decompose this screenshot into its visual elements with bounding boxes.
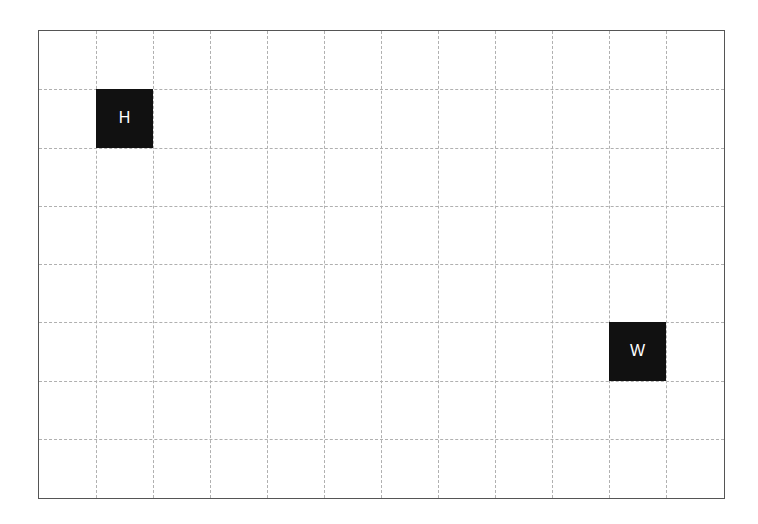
piece-h[interactable]: H [96,89,153,147]
piece-label: W [630,342,645,360]
grid-row-line [39,148,724,149]
grid-row-line [39,264,724,265]
game-board: HW [38,30,725,499]
grid-row-line [39,206,724,207]
grid-row-line [39,381,724,382]
grid-row-line [39,439,724,440]
piece-label: H [119,109,131,127]
piece-w[interactable]: W [609,322,666,380]
